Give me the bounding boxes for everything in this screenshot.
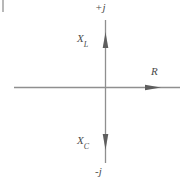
inductive-reactance-symbol: X	[77, 32, 84, 44]
phasor-diagram: +j -j XL XC R	[0, 0, 192, 182]
capacitive-reactance-label: XC	[77, 135, 89, 149]
inductive-arrowhead	[103, 32, 109, 48]
resistance-arrowhead	[145, 85, 161, 91]
capacitive-reactance-symbol: X	[77, 134, 84, 146]
capacitive-reactance-subscript: C	[84, 142, 89, 151]
inductive-reactance-label: XL	[77, 33, 88, 47]
axes-svg	[0, 0, 192, 182]
capacitive-arrowhead	[103, 134, 109, 150]
negative-imaginary-label: -j	[95, 166, 102, 177]
inductive-reactance-subscript: L	[84, 40, 88, 49]
resistance-label: R	[151, 66, 158, 77]
positive-imaginary-label: +j	[95, 2, 105, 13]
